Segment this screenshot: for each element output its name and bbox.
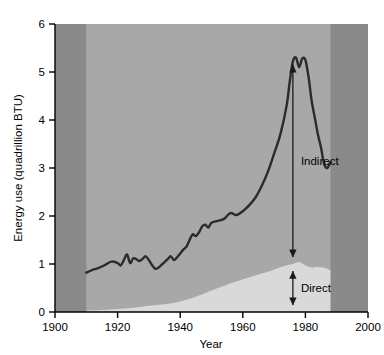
y-tick-label: 2: [39, 210, 45, 222]
energy-use-chart-figure: Indirect Direct 0123456 1900192019401960…: [0, 0, 384, 355]
x-tick-label: 1980: [293, 321, 319, 333]
y-tick-label: 5: [39, 66, 45, 78]
x-tick-label: 1960: [230, 321, 256, 333]
x-tick-label: 2000: [355, 321, 381, 333]
x-tick-label: 1900: [42, 321, 68, 333]
y-tick-label: 3: [39, 162, 45, 174]
y-tick-label: 1: [39, 258, 45, 270]
y-tick-label: 6: [39, 18, 45, 30]
x-axis-title: Year: [199, 338, 222, 350]
x-tick-label: 1940: [167, 321, 193, 333]
y-tick-label: 4: [39, 114, 46, 126]
annotation-label-direct: Direct: [301, 282, 332, 294]
annotation-label-indirect: Indirect: [301, 155, 340, 167]
y-axis-title: Energy use (quadrillion BTU): [12, 94, 24, 242]
chart-canvas: Indirect Direct 0123456 1900192019401960…: [0, 0, 384, 355]
x-tick-label: 1920: [105, 321, 131, 333]
y-tick-label: 0: [39, 306, 45, 318]
